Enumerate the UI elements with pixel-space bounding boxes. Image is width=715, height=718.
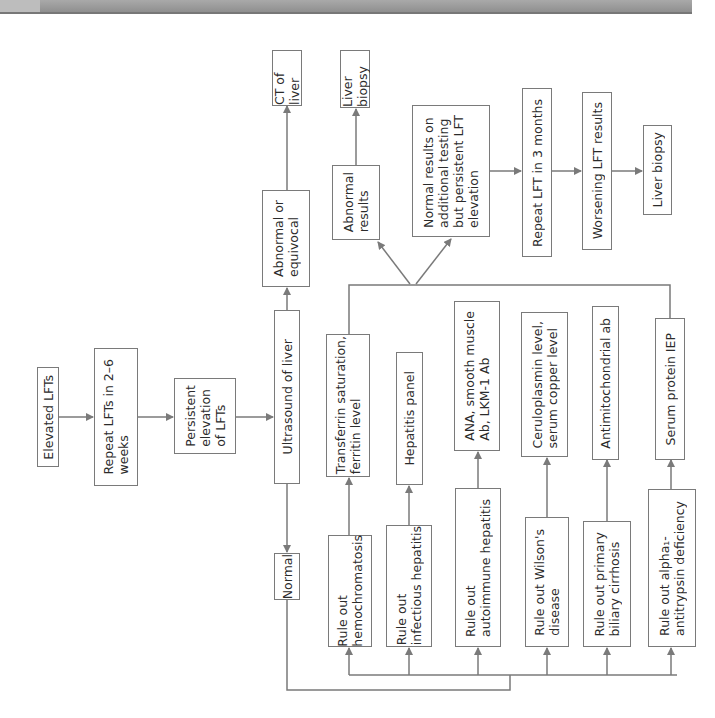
node-ro-autoimmune: Rule out autoimmune hepatitis (455, 488, 501, 647)
node-label: Rule out alpha₁- antitrypsin deficiency (657, 501, 687, 636)
node-label: Repeat LFT in 3 months (530, 99, 545, 247)
node-elevated-lfts: Elevated LFTs (37, 367, 59, 467)
node-ct-liver: CT of liver (272, 50, 302, 106)
node-test-hepatitis: Hepatitis panel (396, 352, 423, 485)
node-ro-wilson: Rule out Wilson's disease (525, 517, 569, 647)
node-label: Worsening LFT results (590, 102, 605, 239)
node-test-transferrin: Transferrin saturation, ferritin level (326, 334, 370, 477)
node-worsening: Worsening LFT results (582, 92, 612, 250)
node-label: Liver biopsy (340, 51, 370, 107)
node-repeat-lft-3mo: Repeat LFT in 3 months (522, 88, 552, 257)
node-label: Hepatitis panel (402, 371, 417, 466)
node-label: Ceruloplasmin level, serum copper level (530, 321, 560, 448)
node-label: Serum protein IEP (663, 333, 678, 445)
node-label: CT of liver (272, 51, 302, 105)
node-label: Abnormal or equivocal (271, 200, 301, 277)
node-label: Repeat LFTs in 2–6 weeks (101, 359, 131, 475)
node-test-antimito: Antimitochondrial ab (592, 306, 619, 460)
node-label: Antimitochondrial ab (598, 318, 613, 449)
node-label: Rule out hemochromatosis (335, 535, 365, 647)
node-ro-alpha1: Rule out alpha₁- antitrypsin deficiency (648, 489, 696, 647)
node-ultrasound: Ultrasound of liver (274, 310, 300, 484)
node-test-ana: ANA, smooth muscle Ab, LKM-1 Ab (454, 301, 500, 451)
node-label: Rule out autoimmune hepatitis (463, 499, 493, 637)
node-ro-hemochromatosis: Rule out hemochromatosis (328, 535, 372, 647)
node-test-ceruloplasmin: Ceruloplasmin level, serum copper level (521, 312, 568, 457)
node-abnormal-equivocal: Abnormal or equivocal (262, 190, 310, 287)
node-abnormal-results: Abnormal results (332, 165, 380, 240)
node-label: Rule out primary biliary cirrhosis (592, 532, 622, 637)
node-label: ANA, smooth muscle Ab, LKM-1 Ab (462, 311, 492, 441)
node-normal-results: Normal results on additional testing but… (412, 105, 490, 237)
node-label: Persistent elevation of LFTs (183, 385, 228, 447)
node-label: Rule out infectious hepatitis (394, 526, 424, 645)
node-persistent-elevation: Persistent elevation of LFTs (174, 378, 236, 454)
node-ro-infectious: Rule out infectious hepatitis (386, 525, 432, 647)
node-label: Rule out Wilson's disease (532, 529, 562, 636)
node-label: Abnormal results (341, 172, 371, 232)
node-normal: Normal (274, 553, 300, 600)
node-liver-biopsy-1: Liver biopsy (340, 50, 370, 108)
node-liver-biopsy-2: Liver biopsy (643, 125, 672, 215)
node-ro-pbc: Rule out primary biliary cirrhosis (583, 521, 631, 647)
node-test-serum-protein: Serum protein IEP (655, 318, 685, 460)
node-repeat-lfts: Repeat LFTs in 2–6 weeks (94, 348, 138, 486)
node-label: Transferrin saturation, ferritin level (333, 336, 363, 474)
node-label: Ultrasound of liver (280, 339, 295, 454)
node-label: Normal results on additional testing but… (421, 115, 481, 228)
node-label: Liver biopsy (650, 132, 665, 208)
node-label: Normal (280, 554, 295, 599)
node-label: Elevated LFTs (41, 375, 56, 460)
